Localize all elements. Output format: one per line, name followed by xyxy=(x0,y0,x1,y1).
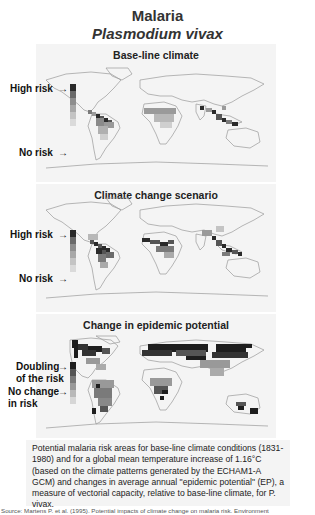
legend-arrow-icon: → xyxy=(58,273,68,284)
legend-arrow-icon: → xyxy=(58,83,68,94)
panel-climate-change: Climate change scenario xyxy=(36,184,276,312)
legend-high-risk: High risk xyxy=(10,83,53,94)
legend-no-change-line2: in risk xyxy=(8,398,37,409)
panel-baseline: Base-line climate xyxy=(36,44,276,182)
panel-epidemic-potential: Change in epidemic potential xyxy=(36,314,276,438)
legend-no-risk: No risk xyxy=(19,147,53,158)
legend-gradient-bar xyxy=(70,362,76,404)
legend-no-risk: No risk xyxy=(19,273,53,284)
legend-doubling-line1: Doubling xyxy=(16,361,59,372)
legend-arrow-icon: → xyxy=(58,147,68,158)
legend-gradient-bar xyxy=(70,230,76,272)
figure-caption: Potential malaria risk areas for base-li… xyxy=(26,440,290,506)
legend-arrow-icon: → xyxy=(58,229,68,240)
legend-arrow-icon: → xyxy=(58,386,68,397)
legend-high-risk: High risk xyxy=(10,229,53,240)
legend-gradient-bar xyxy=(70,84,76,126)
panel-title: Change in epidemic potential xyxy=(36,319,276,331)
figure-title: Malaria xyxy=(0,7,315,24)
panel-title: Base-line climate xyxy=(36,49,276,61)
legend-arrow-icon: → xyxy=(58,361,68,372)
source-citation: Source: Martens P. et al. (1995). Potent… xyxy=(1,507,315,514)
figure-subtitle: Plasmodium vivax xyxy=(0,25,315,42)
legend-no-change-line1: No change xyxy=(8,386,59,397)
legend-doubling-line2: of the risk xyxy=(16,373,64,384)
